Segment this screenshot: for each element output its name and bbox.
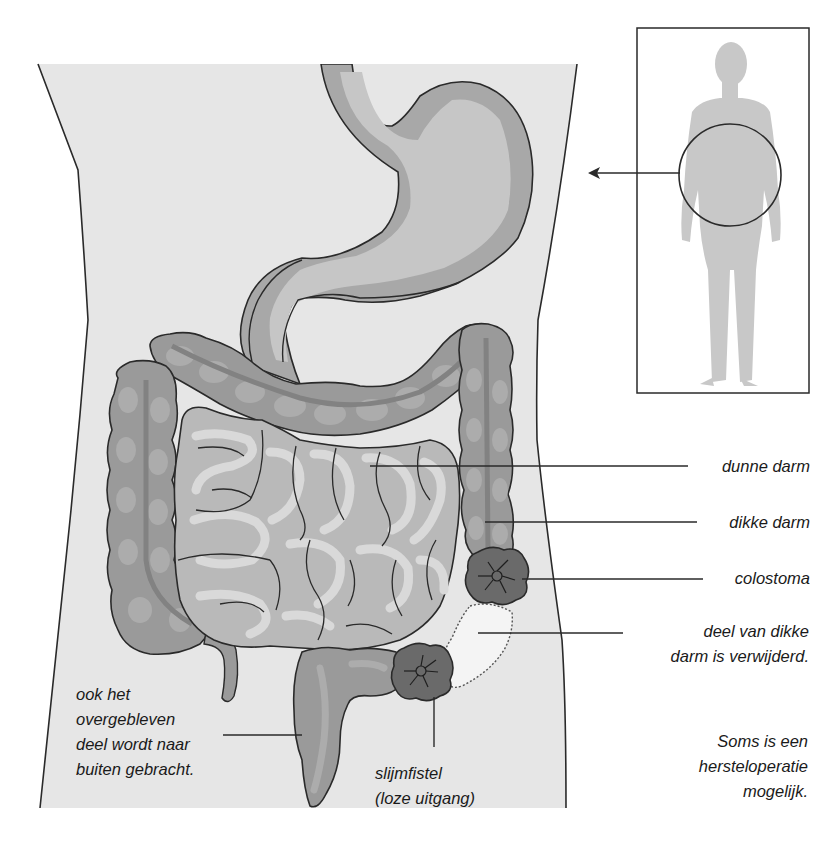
- slijmfistel-stoma: [391, 643, 453, 700]
- body-inset: [588, 28, 809, 393]
- label-line: Soms is een: [699, 729, 808, 754]
- label-text: colostoma: [735, 566, 810, 591]
- label-colostoma: colostoma: [735, 566, 810, 591]
- colostoma: [465, 547, 528, 604]
- label-dikke-darm: dikke darm: [729, 510, 810, 535]
- label-line: slijmfistel: [375, 761, 475, 786]
- label-herstel: Soms is een hersteloperatie mogelijk.: [699, 729, 808, 804]
- label-line: deel van dikke: [671, 619, 809, 644]
- label-text: dunne darm: [722, 454, 810, 479]
- label-line: mogelijk.: [699, 779, 808, 804]
- descending-colon: [459, 324, 513, 560]
- label-line: (loze uitgang): [375, 786, 475, 811]
- label-text: dikke darm: [729, 510, 810, 535]
- label-line: ook het: [76, 682, 194, 707]
- small-intestine: [174, 407, 459, 650]
- label-line: darm is verwijderd.: [671, 644, 809, 669]
- label-line: buiten gebracht.: [76, 757, 194, 782]
- label-slijmfistel: slijmfistel (loze uitgang): [375, 761, 475, 811]
- label-line: hersteloperatie: [699, 754, 808, 779]
- label-dunne-darm: dunne darm: [722, 454, 810, 479]
- label-deel-verwijderd: deel van dikke darm is verwijderd.: [671, 619, 809, 669]
- label-overgebleven: ook het overgebleven deel wordt naar bui…: [76, 682, 194, 782]
- label-line: deel wordt naar: [76, 732, 194, 757]
- label-line: overgebleven: [76, 707, 194, 732]
